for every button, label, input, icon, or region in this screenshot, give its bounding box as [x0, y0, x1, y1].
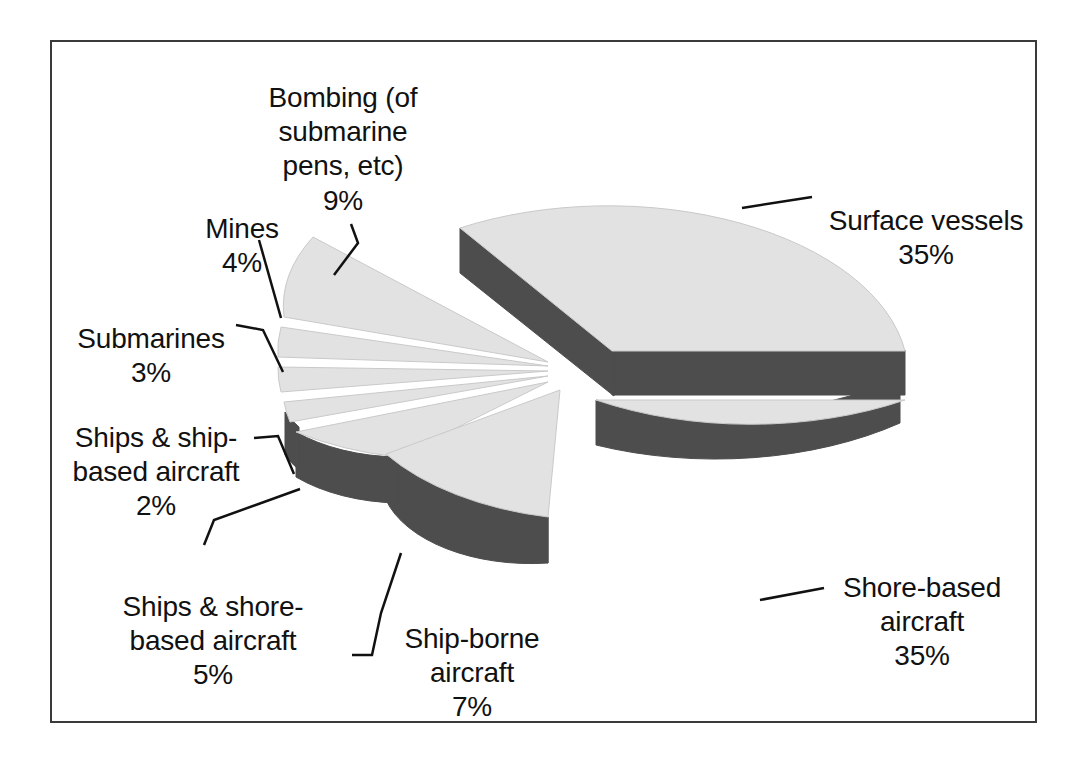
label-shore-based-aircraft: Shore-based aircraft 35% [824, 537, 1020, 708]
label-ships-shore-based-aircraft-percent: 5% [105, 658, 321, 692]
slice-side-surface-vessels [612, 350, 905, 395]
label-ship-borne-aircraft-percent: 7% [390, 690, 554, 724]
label-ships-ship-based-aircraft-name: Ships & ship- based aircraft [73, 422, 240, 487]
label-ships-ship-based-aircraft-percent: 2% [58, 489, 254, 523]
label-submarines-name: Submarines [77, 323, 224, 354]
leader-line-submarines [236, 325, 283, 372]
label-ships-shore-based-aircraft-name: Ships & shore- based aircraft [123, 591, 304, 656]
label-mines-percent: 4% [178, 246, 306, 280]
label-mines-name: Mines [205, 213, 279, 244]
label-submarines-percent: 3% [62, 356, 240, 390]
label-surface-vessels: Surface vessels 35% [818, 170, 1034, 307]
label-bombing-name: Bombing (of submarine pens, etc) [269, 82, 418, 181]
label-ship-borne-aircraft-name: Ship-borne aircraft [405, 623, 540, 688]
leader-line-surface-vessels [742, 197, 812, 208]
label-ships-ship-based-aircraft: Ships & ship- based aircraft 2% [58, 387, 254, 558]
leader-line-shore-based-aircraft [760, 588, 824, 600]
label-shore-based-aircraft-percent: 35% [824, 639, 1020, 673]
label-shore-based-aircraft-name: Shore-based aircraft [843, 572, 1001, 637]
label-ships-shore-based-aircraft: Ships & shore- based aircraft 5% [105, 556, 321, 727]
label-surface-vessels-name: Surface vessels [829, 205, 1024, 236]
label-surface-vessels-percent: 35% [818, 238, 1034, 272]
label-ship-borne-aircraft: Ship-borne aircraft 7% [390, 588, 554, 759]
